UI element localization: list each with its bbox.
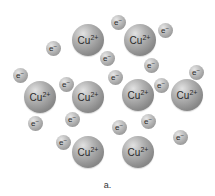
electron: e−	[28, 116, 43, 131]
electron-label: e−	[59, 138, 67, 147]
copper-ion: Cu2+	[122, 79, 154, 111]
copper-ion-label: Cu2+	[128, 90, 149, 101]
electron: e−	[59, 77, 74, 92]
electron: e−	[158, 23, 173, 38]
electron: e−	[141, 114, 156, 129]
electron-label: e−	[147, 61, 155, 70]
electron-label: e−	[62, 80, 70, 89]
electron-label: e−	[114, 18, 122, 27]
electron: e−	[46, 41, 61, 56]
electron: e−	[173, 130, 188, 145]
copper-ion: Cu2+	[72, 81, 104, 113]
electron: e−	[112, 120, 127, 135]
copper-ion: Cu2+	[122, 136, 154, 168]
copper-ion: Cu2+	[72, 136, 104, 168]
copper-ion: Cu2+	[24, 81, 56, 113]
copper-ion-label: Cu2+	[78, 35, 99, 46]
electron-label: e−	[31, 119, 39, 128]
electron: e−	[100, 51, 115, 66]
copper-ion: Cu2+	[124, 24, 156, 56]
electron-label: e−	[103, 54, 111, 63]
electron: e−	[56, 135, 71, 150]
copper-ion-label: Cu2+	[78, 147, 99, 158]
copper-ion-label: Cu2+	[128, 147, 149, 158]
electron-label: e−	[176, 133, 184, 142]
electron-label: e−	[144, 117, 152, 126]
electron-label: e−	[192, 68, 200, 77]
electron-label: e−	[68, 115, 76, 124]
copper-ion-label: Cu2+	[78, 92, 99, 103]
copper-ion-label: Cu2+	[30, 92, 51, 103]
electron: e−	[111, 15, 126, 30]
electron-label: e−	[16, 71, 24, 80]
electron-label: e−	[115, 123, 123, 132]
copper-ion: Cu2+	[171, 79, 203, 111]
copper-ion: Cu2+	[72, 24, 104, 56]
electron-label: e−	[111, 73, 119, 82]
electron-label: e−	[161, 26, 169, 35]
electron-label: e−	[49, 44, 57, 53]
electron: e−	[189, 65, 204, 80]
copper-ion-label: Cu2+	[130, 35, 151, 46]
figure-label: a.	[0, 180, 215, 190]
electron: e−	[144, 58, 159, 73]
electron: e−	[154, 78, 169, 93]
electron: e−	[65, 112, 80, 127]
electron-label: e−	[157, 81, 165, 90]
electron: e−	[13, 68, 28, 83]
electron: e−	[108, 70, 123, 85]
copper-ion-label: Cu2+	[177, 90, 198, 101]
